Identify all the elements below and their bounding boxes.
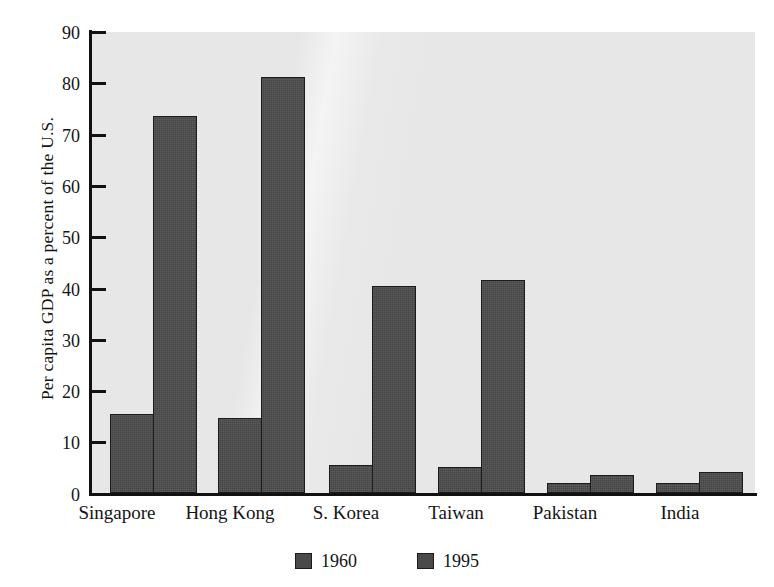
y-tick-label-30: 30 bbox=[40, 332, 80, 350]
bar-india-1960 bbox=[656, 483, 700, 493]
y-tick-mark-40 bbox=[92, 288, 106, 291]
y-tick-mark-70 bbox=[92, 134, 106, 137]
bar-chart-figure: Per capita GDP as a percent of the U.S. … bbox=[0, 0, 774, 587]
bar-pakistan-1995 bbox=[590, 475, 634, 493]
legend-label-1960: 1960 bbox=[321, 552, 357, 570]
y-tick-mark-50 bbox=[92, 236, 106, 239]
y-tick-label-60: 60 bbox=[40, 178, 80, 196]
x-category-label-taiwan: Taiwan bbox=[401, 502, 511, 524]
legend-entry-1995: 1995 bbox=[417, 552, 479, 570]
bar-taiwan-1960 bbox=[438, 467, 482, 493]
x-category-label-hong-kong: Hong Kong bbox=[170, 502, 290, 524]
y-axis-title: Per capita GDP as a percent of the U.S. bbox=[37, 39, 58, 479]
bar-india-1995 bbox=[699, 472, 743, 493]
x-category-label-pakistan: Pakistan bbox=[510, 502, 620, 524]
bar-taiwan-1995 bbox=[481, 280, 525, 493]
x-category-label-singapore: Singapore bbox=[62, 502, 172, 524]
x-category-label-india: India bbox=[625, 502, 735, 524]
legend-swatch-icon-1995 bbox=[417, 553, 434, 569]
bar-pakistan-1960 bbox=[547, 483, 591, 493]
bar-singapore-1960 bbox=[110, 414, 154, 493]
y-tick-label-90: 90 bbox=[40, 24, 80, 42]
y-tick-mark-10 bbox=[92, 441, 106, 444]
plot-area bbox=[91, 32, 755, 494]
y-tick-mark-60 bbox=[92, 185, 106, 188]
y-tick-label-70: 70 bbox=[40, 127, 80, 145]
x-axis-line bbox=[89, 493, 757, 496]
y-axis-line bbox=[89, 30, 92, 496]
y-tick-label-20: 20 bbox=[40, 383, 80, 401]
bar-hong-kong-1995 bbox=[261, 77, 305, 493]
y-tick-label-10: 10 bbox=[40, 434, 80, 452]
y-tick-mark-80 bbox=[92, 82, 106, 85]
y-tick-mark-90 bbox=[92, 31, 106, 34]
y-tick-mark-20 bbox=[92, 390, 106, 393]
legend-entry-1960: 1960 bbox=[295, 552, 357, 570]
bar-s-korea-1960 bbox=[329, 465, 373, 493]
bar-hong-kong-1960 bbox=[218, 418, 262, 493]
bar-singapore-1995 bbox=[153, 116, 197, 493]
y-tick-label-80: 80 bbox=[40, 75, 80, 93]
y-tick-label-50: 50 bbox=[40, 229, 80, 247]
bar-s-korea-1995 bbox=[372, 286, 416, 493]
chart-legend: 1960 1995 bbox=[0, 552, 774, 570]
x-category-label-s-korea: S. Korea bbox=[291, 502, 401, 524]
y-tick-mark-30 bbox=[92, 339, 106, 342]
legend-label-1995: 1995 bbox=[443, 552, 479, 570]
legend-swatch-icon-1960 bbox=[295, 553, 312, 569]
y-tick-label-40: 40 bbox=[40, 281, 80, 299]
